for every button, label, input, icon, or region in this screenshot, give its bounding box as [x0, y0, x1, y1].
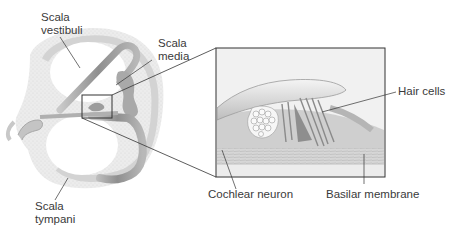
cochlea-cross-section [8, 28, 163, 188]
label-scala-vestibuli: Scala vestibuli [41, 11, 83, 37]
organ-of-corti-inset [216, 48, 385, 177]
label-line-2: media [158, 50, 189, 63]
label-cochlear-neuron: Cochlear neuron [208, 188, 293, 201]
label-line-2: tympani [35, 213, 75, 226]
label-line-1: Scala [35, 200, 75, 213]
label-scala-media: Scala media [158, 37, 189, 63]
label-line-2: vestibuli [41, 24, 83, 37]
label-line-1: Scala [158, 37, 189, 50]
label-hair-cells: Hair cells [398, 85, 445, 98]
label-basilar-membrane: Basilar membrane [326, 188, 419, 201]
label-scala-tympani: Scala tympani [35, 200, 75, 226]
label-line-1: Scala [41, 11, 83, 24]
